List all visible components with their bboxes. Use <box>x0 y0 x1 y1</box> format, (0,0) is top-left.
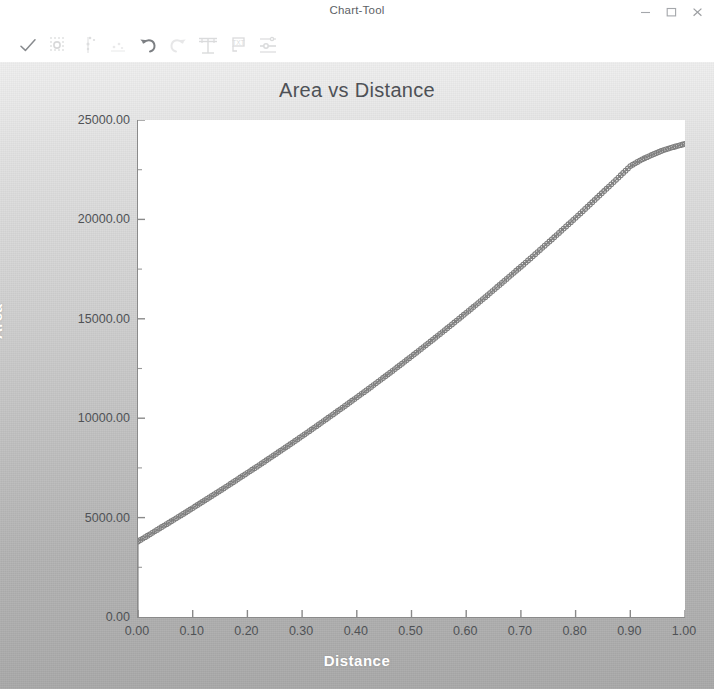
x-tick-label: 0.80 <box>562 624 586 638</box>
chart-tool-window: Chart-Tool <box>0 0 714 689</box>
y-tick-label: 5000.00 <box>85 511 130 525</box>
title-bar: Chart-Tool <box>0 0 714 28</box>
axis-settings-button[interactable] <box>254 32 281 58</box>
x-tick-label: 1.00 <box>672 624 696 638</box>
y-tick-label: 0.00 <box>106 610 130 624</box>
x-tick-label: 0.10 <box>180 624 204 638</box>
marker-style-button[interactable] <box>44 32 71 58</box>
plot-canvas <box>138 120 685 617</box>
window-controls <box>639 5 704 19</box>
text-box-icon: TXT <box>227 34 249 56</box>
scatter-plot-button[interactable] <box>74 32 101 58</box>
x-axis-tick-labels: 0.000.100.200.300.400.500.600.700.800.90… <box>0 624 714 646</box>
window-title: Chart-Tool <box>0 4 714 16</box>
text-label-button[interactable]: TXT <box>224 32 251 58</box>
data-points-icon <box>107 34 129 56</box>
checkmark-icon <box>18 35 38 55</box>
x-tick-label: 0.70 <box>508 624 532 638</box>
redo-button[interactable] <box>164 32 191 58</box>
circle-marker-icon <box>47 34 69 56</box>
y-tick-label: 25000.00 <box>78 113 130 127</box>
x-tick-label: 0.90 <box>617 624 641 638</box>
chart-figure: Area vs Distance Area Distance 0.005000.… <box>0 62 714 689</box>
grid-button[interactable] <box>194 32 221 58</box>
undo-arrow-icon <box>137 34 159 56</box>
axis-settings-icon <box>257 34 279 56</box>
minimize-button[interactable] <box>639 5 652 19</box>
plot-area[interactable] <box>137 120 685 618</box>
x-tick-label: 0.40 <box>344 624 368 638</box>
y-axis-tick-labels: 0.005000.0010000.0015000.0020000.0025000… <box>0 62 130 689</box>
x-tick-label: 0.30 <box>289 624 313 638</box>
toolbar: TXT <box>0 28 714 62</box>
apply-button[interactable] <box>14 32 41 58</box>
scatter-points-icon <box>77 34 99 56</box>
x-tick-label: 0.20 <box>234 624 258 638</box>
maximize-button[interactable] <box>665 5 678 19</box>
y-tick-label: 10000.00 <box>78 411 130 425</box>
undo-button[interactable] <box>134 32 161 58</box>
y-tick-label: 15000.00 <box>78 312 130 326</box>
x-tick-label: 0.00 <box>125 624 149 638</box>
close-button[interactable] <box>691 5 704 19</box>
svg-text:TXT: TXT <box>232 39 244 46</box>
x-tick-label: 0.50 <box>398 624 422 638</box>
y-tick-label: 20000.00 <box>78 212 130 226</box>
x-tick-label: 0.60 <box>453 624 477 638</box>
redo-arrow-icon <box>167 34 189 56</box>
grid-axis-icon <box>196 34 220 56</box>
data-points-button[interactable] <box>104 32 131 58</box>
